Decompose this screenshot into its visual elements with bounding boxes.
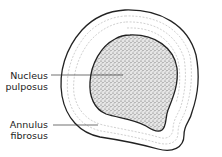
nucleus-label-line1: Nucleus: [0, 70, 48, 81]
annulus-label-line2: fibrosus: [0, 130, 48, 141]
annulus-label-line1: Annulus: [0, 119, 48, 130]
nucleus-pulposus-label: Nucleus pulposus: [0, 70, 48, 92]
nucleus-label-line2: pulposus: [0, 81, 48, 92]
annulus-fibrosus-label: Annulus fibrosus: [0, 119, 48, 141]
